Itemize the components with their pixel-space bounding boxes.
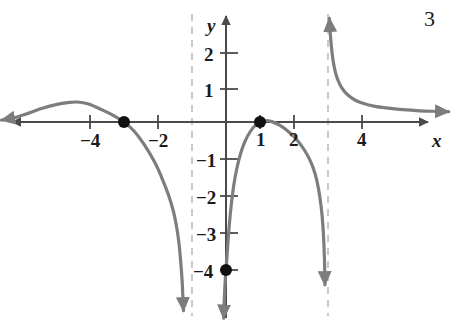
axis-group <box>12 16 428 318</box>
x-tick-label--4: −4 <box>80 131 100 150</box>
graph-canvas <box>0 0 454 320</box>
marked-point <box>118 116 130 128</box>
y-tick-label-1: 1 <box>204 81 214 100</box>
x-tick-label--2: −2 <box>148 131 168 150</box>
y-tick-label--1: −1 <box>196 151 216 170</box>
curve-branch-right <box>329 18 448 111</box>
y-tick-label--3: −3 <box>196 225 216 244</box>
x-axis-label: x <box>432 131 442 150</box>
y-tick-label--2: −2 <box>196 188 216 207</box>
rational-function-figure: −4 −2 1 2 4 2 1 −1 −2 −3 −4 y x 3 <box>0 0 454 320</box>
y-axis-label: y <box>207 16 215 35</box>
figure-number: 3 <box>424 8 435 30</box>
x-tick-label-4: 4 <box>357 130 367 149</box>
y-tick-label-2: 2 <box>204 45 214 64</box>
curve-branch-middle <box>224 121 325 319</box>
y-tick-label--4: −4 <box>193 262 213 281</box>
x-tick-label-1: 1 <box>256 130 266 149</box>
marked-point <box>220 264 232 276</box>
marked-point <box>254 116 266 128</box>
x-tick-label-2: 2 <box>289 130 299 149</box>
